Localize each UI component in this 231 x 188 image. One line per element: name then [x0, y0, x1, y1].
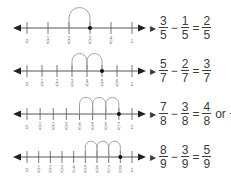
fraction-subtrahend: 39	[181, 144, 190, 170]
tick-label-denominator: 9	[61, 171, 64, 174]
tick-label-numerator: 7	[118, 122, 121, 127]
hop-arc	[72, 54, 87, 72]
fraction-minuend: 78	[159, 101, 168, 127]
hop-arc	[80, 97, 93, 114]
number-line-row-eighths: 0182838485868781 ▸ 78 − 38 = 48 or 12	[0, 86, 231, 130]
fraction-subtrahend: 27	[181, 58, 190, 84]
hop-arc	[93, 97, 106, 114]
tick-label-numerator: 2	[56, 79, 59, 84]
minus-sign: −	[171, 107, 178, 121]
start-point-dot	[118, 155, 122, 159]
number-line-ninths: 019293949596979891	[0, 129, 150, 173]
tick-label-numerator: 2	[52, 122, 55, 127]
tick-label-numerator: 8	[119, 165, 122, 170]
fraction-subtrahend: 38	[181, 101, 190, 127]
number-line-row-ninths: 019293949596979891 ▸ 89 − 39 = 59	[0, 129, 231, 173]
hop-arc	[106, 97, 119, 114]
fraction-result: 59	[202, 144, 211, 170]
tick-label: 1	[131, 167, 134, 173]
tick-label-denominator: 9	[37, 171, 40, 174]
hop-arc	[87, 54, 102, 72]
fraction-simplified: 12	[230, 101, 231, 127]
tick-label-numerator: 1	[37, 165, 40, 170]
equals-sign: =	[192, 107, 199, 121]
right-arrow-icon	[138, 25, 146, 32]
tick-label-denominator: 9	[96, 171, 99, 174]
equals-sign: =	[192, 64, 199, 78]
minus-sign: −	[171, 21, 178, 35]
tick-label-denominator: 9	[84, 171, 87, 174]
number-line-eighths: 0182838485868781	[0, 86, 150, 130]
tick-label: 0	[26, 167, 29, 173]
tick-label-numerator: 3	[89, 36, 92, 41]
tick-label-numerator: 3	[65, 122, 68, 127]
tick-label-numerator: 2	[68, 36, 71, 41]
tick-label-numerator: 2	[49, 165, 52, 170]
tick-label-numerator: 3	[61, 165, 64, 170]
tick-label-numerator: 4	[86, 79, 89, 84]
or-word: or	[215, 107, 226, 121]
equation-ninths: ▸ 89 − 39 = 59	[148, 144, 212, 170]
tick-label-numerator: 5	[84, 165, 87, 170]
equation-eighths: ▸ 78 − 38 = 48 or 12	[148, 101, 231, 127]
left-arrow-icon	[13, 68, 21, 75]
number-line-fifths: 0152535451	[0, 0, 150, 44]
equation-sevenths: ▸ 57 − 27 = 37	[148, 58, 212, 84]
arrow-pointer-icon: ▸	[150, 64, 156, 78]
tick-label-numerator: 1	[41, 79, 44, 84]
fraction-subtrahend: 15	[181, 15, 190, 41]
tick-label-numerator: 1	[47, 36, 50, 41]
minus-sign: −	[171, 64, 178, 78]
fraction-result: 48	[202, 101, 211, 127]
tick-label-denominator: 9	[72, 171, 75, 174]
equals-sign: =	[192, 150, 199, 164]
number-line-row-fifths: 0152535451 ▸ 35 − 15 = 25	[0, 0, 231, 44]
tick-label-numerator: 4	[78, 122, 81, 127]
tick-label-denominator: 9	[119, 171, 122, 174]
tick-label-numerator: 5	[101, 79, 104, 84]
left-arrow-icon	[13, 25, 21, 32]
start-point-dot	[100, 69, 104, 73]
tick-label-numerator: 1	[39, 122, 42, 127]
fraction-minuend: 89	[159, 144, 168, 170]
arrow-pointer-icon: ▸	[150, 150, 156, 164]
fraction-result: 37	[202, 58, 211, 84]
right-arrow-icon	[138, 154, 146, 161]
start-point-dot	[117, 112, 121, 116]
tick-label-numerator: 3	[71, 79, 74, 84]
tick-label-numerator: 4	[72, 165, 75, 170]
right-arrow-icon	[138, 111, 146, 118]
hop-arc	[69, 8, 90, 28]
minus-sign: −	[171, 150, 178, 164]
tick-label-denominator: 9	[49, 171, 52, 174]
number-line-sevenths: 01727374757671	[0, 43, 150, 87]
left-arrow-icon	[13, 154, 21, 161]
tick-label-numerator: 6	[96, 165, 99, 170]
arrow-pointer-icon: ▸	[150, 107, 156, 121]
tick-label-denominator: 9	[107, 171, 110, 174]
hop-arc	[97, 141, 109, 157]
tick-label-numerator: 5	[91, 122, 94, 127]
equals-sign: =	[192, 21, 199, 35]
tick-label-numerator: 4	[110, 36, 113, 41]
tick-label-numerator: 7	[107, 165, 110, 170]
tick-label-numerator: 6	[104, 122, 107, 127]
start-point-dot	[88, 26, 92, 30]
arrow-pointer-icon: ▸	[150, 21, 156, 35]
fraction-result: 25	[202, 15, 211, 41]
hop-arc	[85, 141, 97, 157]
equation-fifths: ▸ 35 − 15 = 25	[148, 15, 212, 41]
right-arrow-icon	[138, 68, 146, 75]
hop-arc	[109, 141, 121, 157]
fraction-minuend: 35	[159, 15, 168, 41]
tick-label-numerator: 6	[116, 79, 119, 84]
number-line-row-sevenths: 01727374757671 ▸ 57 − 27 = 37	[0, 43, 231, 87]
left-arrow-icon	[13, 111, 21, 118]
fraction-minuend: 57	[159, 58, 168, 84]
